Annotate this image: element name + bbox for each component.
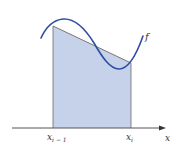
axis-label: x [165,134,170,143]
function-label: f [145,32,149,42]
x-axis-arrow-icon [159,126,166,131]
trapezoid-rule-diagram: f xi − 1 xi x [0,0,183,149]
left-point-label: xi − 1 [47,133,67,143]
right-point-label: xi [126,133,133,143]
diagram-canvas [0,0,183,149]
